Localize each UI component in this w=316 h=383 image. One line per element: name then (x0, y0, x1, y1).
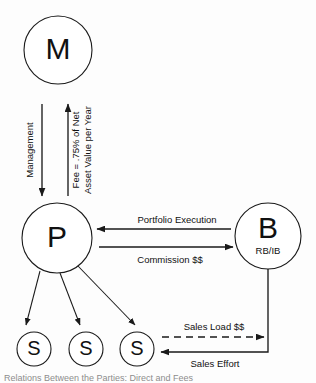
node-b-label: B (258, 211, 278, 244)
figure-caption: Relations Between the Parties: Direct an… (4, 372, 304, 383)
node-p[interactable]: P (22, 203, 92, 273)
node-s1-label: S (27, 337, 40, 359)
edge-p-to-s1-arrow (26, 271, 40, 325)
node-s1[interactable]: S (17, 332, 51, 366)
edge-label-fee-line1: Fee = .75% of Net (70, 111, 81, 188)
node-m-label: M (46, 32, 71, 65)
edge-p-to-s2-arrow (60, 273, 80, 325)
edge-label-commission: Commission $$ (137, 254, 203, 265)
edge-p-to-s3-arrow (78, 266, 135, 325)
node-m[interactable]: M (24, 16, 92, 84)
diagram-canvas: Management Fee = .75% of Net Asset Value… (0, 0, 316, 383)
node-s3-label: S (130, 337, 143, 359)
node-b[interactable]: B RB/IB (235, 203, 301, 269)
edge-sales-effort-arrow (161, 269, 268, 352)
edge-label-fee-line2: Asset Value per Year (82, 106, 93, 194)
edge-label-management: Management (24, 122, 35, 178)
node-s2-label: S (79, 337, 92, 359)
node-s2[interactable]: S (69, 332, 103, 366)
edge-label-sales-effort: Sales Effort (191, 358, 240, 369)
node-p-label: P (47, 220, 67, 253)
node-b-sublabel: RB/IB (256, 245, 281, 256)
edge-label-sales-load: Sales Load $$ (184, 321, 245, 332)
node-s3[interactable]: S (120, 332, 154, 366)
relationship-diagram: Management Fee = .75% of Net Asset Value… (0, 0, 316, 383)
edge-label-portfolio-execution: Portfolio Execution (137, 214, 216, 225)
